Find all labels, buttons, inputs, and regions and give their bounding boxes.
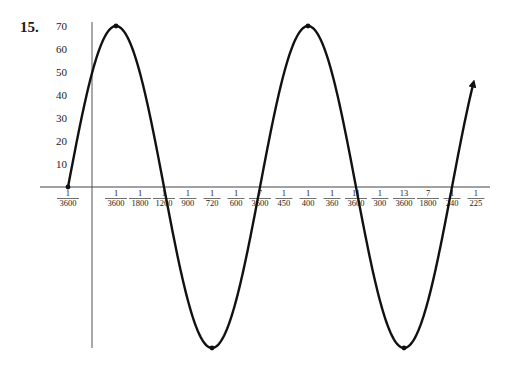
svg-text:900: 900	[182, 198, 195, 208]
y-tick-label: 50	[56, 66, 68, 78]
svg-text:1: 1	[306, 188, 310, 198]
x-tick-label: 11800	[129, 188, 151, 208]
svg-text:450: 450	[278, 198, 291, 208]
svg-text:3600: 3600	[396, 198, 413, 208]
svg-text:1200: 1200	[155, 198, 172, 208]
x-tick-label: 13600	[57, 188, 79, 208]
sine-graph: 10203040506070 1360013600118001120019001…	[0, 0, 509, 372]
y-tick-label: 10	[56, 158, 68, 170]
y-tick-label: 30	[56, 112, 68, 124]
svg-text:7: 7	[426, 188, 430, 198]
x-tick-label: 1225	[467, 188, 484, 208]
x-tick-label: 1720	[204, 188, 221, 208]
y-tick-label: 70	[56, 20, 68, 32]
x-tick-label: 71800	[417, 188, 439, 208]
x-tick-label: 1400	[300, 188, 317, 208]
svg-text:1800: 1800	[132, 198, 149, 208]
svg-text:300: 300	[374, 198, 387, 208]
svg-text:3600: 3600	[59, 198, 76, 208]
svg-text:3600: 3600	[348, 198, 365, 208]
svg-text:1: 1	[234, 188, 238, 198]
svg-text:1: 1	[210, 188, 214, 198]
svg-text:1: 1	[66, 188, 70, 198]
svg-text:360: 360	[326, 198, 339, 208]
y-tick-label: 40	[56, 89, 68, 101]
y-tick-label: 60	[56, 43, 68, 55]
svg-text:3600: 3600	[251, 198, 268, 208]
svg-text:225: 225	[470, 198, 483, 208]
svg-text:1: 1	[138, 188, 142, 198]
svg-text:1: 1	[186, 188, 190, 198]
x-tick-label: 1300	[371, 188, 388, 208]
svg-text:1: 1	[282, 188, 286, 198]
svg-text:1: 1	[330, 188, 334, 198]
svg-text:400: 400	[302, 198, 315, 208]
x-tick-label: 13600	[105, 188, 127, 208]
svg-text:3600: 3600	[108, 198, 125, 208]
x-tick-label: 133600	[393, 188, 415, 208]
x-tick-label: 1600	[228, 188, 245, 208]
svg-text:13: 13	[400, 188, 409, 198]
x-tick-label: 1360	[324, 188, 341, 208]
x-tick-label: 1900	[179, 188, 196, 208]
y-tick-labels: 10203040506070	[56, 20, 68, 170]
key-point	[210, 346, 215, 351]
key-point	[114, 24, 119, 29]
svg-text:1: 1	[474, 188, 478, 198]
y-tick-label: 20	[56, 135, 68, 147]
x-tick-labels: 1360013600118001120019001720160073600145…	[57, 188, 485, 208]
svg-text:1: 1	[114, 188, 118, 198]
key-point	[306, 24, 311, 29]
key-point	[402, 346, 407, 351]
svg-text:600: 600	[230, 198, 243, 208]
svg-text:720: 720	[206, 198, 219, 208]
svg-text:1800: 1800	[420, 198, 437, 208]
key-point	[66, 185, 71, 190]
svg-text:1: 1	[378, 188, 382, 198]
x-tick-label: 1450	[275, 188, 292, 208]
